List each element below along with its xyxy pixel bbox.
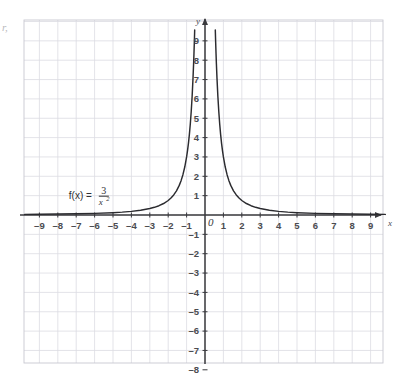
x-tick-label: –4: [126, 220, 137, 231]
y-tick-label: 3: [194, 151, 199, 162]
y-tick-label: 6: [194, 93, 199, 104]
y-tick-label: 1: [194, 190, 200, 201]
x-tick-label: 1: [221, 220, 227, 231]
x-tick-label: 3: [258, 220, 263, 231]
y-tick-label: 9: [194, 35, 199, 46]
y-axis-label: y: [195, 16, 200, 26]
equation-numerator: 3: [101, 185, 106, 196]
x-tick-label: 2: [239, 220, 244, 231]
x-tick-label: 6: [313, 220, 318, 231]
y-tick-label: 5: [194, 113, 200, 124]
y-tick-label: –2: [188, 248, 199, 259]
y-tick-label: –5: [188, 306, 199, 317]
x-axis-label: x: [387, 218, 392, 228]
function-plot-svg: –9–8–7–6–5–4–3–2–1123456789987654321–1–2…: [0, 0, 406, 376]
x-tick-label: –2: [163, 220, 174, 231]
scan-artifact-mark: r,: [2, 22, 10, 36]
y-tick-label: 4: [194, 132, 200, 143]
equation-lhs: f(x) =: [69, 190, 92, 201]
x-tick-label: 5: [294, 220, 300, 231]
graph-figure: r, –9–8–7–6–5–4–3–2–1123456789987654321–…: [0, 0, 406, 376]
y-tick-label: 8: [194, 55, 199, 66]
y-tick-label: –4: [188, 287, 199, 298]
x-tick-label: 7: [331, 220, 336, 231]
x-tick-label: –8: [53, 220, 64, 231]
origin-label: 0: [208, 216, 214, 228]
x-tick-label: 9: [368, 220, 373, 231]
y-tick-label: –7: [188, 345, 199, 356]
y-tick-label: 2: [194, 171, 199, 182]
y-tick-label: –6: [188, 325, 199, 336]
equation-denominator-base: x: [98, 197, 103, 207]
x-tick-label: –5: [108, 220, 119, 231]
x-tick-label: –9: [34, 220, 45, 231]
x-tick-label: 4: [276, 220, 282, 231]
y-tick-label: 7: [194, 74, 199, 85]
y-tick-label: –1: [188, 229, 199, 240]
x-tick-label: –6: [89, 220, 100, 231]
x-tick-label: –7: [71, 220, 82, 231]
x-tick-label: –3: [145, 220, 156, 231]
plot-background: [0, 0, 406, 376]
y-tick-label: –8: [188, 364, 199, 375]
x-tick-label: 8: [350, 220, 355, 231]
y-tick-label: –3: [188, 267, 199, 278]
